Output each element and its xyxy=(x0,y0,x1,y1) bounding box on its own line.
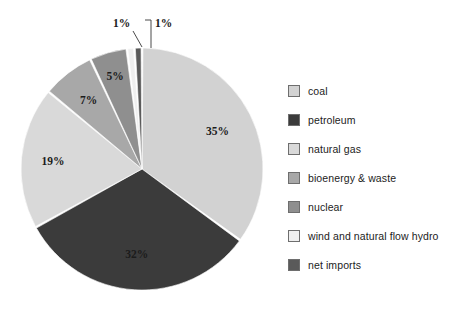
legend-swatch-icon xyxy=(288,230,300,242)
callout-group-net-imports: 1% xyxy=(145,17,172,48)
pie-chart-figure: 35%32%19%7%5% 1% 1% coalpetroleumnatural… xyxy=(0,0,454,321)
leader-line-net-imports xyxy=(145,20,151,48)
legend-swatch-icon xyxy=(288,143,300,155)
data-label-bioenergy-waste: 7% xyxy=(80,94,97,106)
legend-item-label: bioenergy & waste xyxy=(308,172,396,184)
legend-item-label: petroleum xyxy=(308,114,356,126)
legend-item-label: nuclear xyxy=(308,201,343,213)
data-label-nuclear: 5% xyxy=(106,70,123,82)
legend-item-label: coal xyxy=(308,85,328,97)
data-label-natural-gas: 19% xyxy=(41,155,64,167)
legend-item-coal[interactable]: coal xyxy=(288,76,454,105)
legend-item-label: natural gas xyxy=(308,143,361,155)
legend-item-label: wind and natural flow hydro xyxy=(308,230,439,242)
legend-item-bioenergy-waste[interactable]: bioenergy & waste xyxy=(288,163,454,192)
chart-legend: coalpetroleumnatural gasbioenergy & wast… xyxy=(288,76,454,279)
callout-label-net-imports: 1% xyxy=(155,17,172,29)
legend-swatch-icon xyxy=(288,172,300,184)
legend-swatch-icon xyxy=(288,259,300,271)
legend-item-net-imports[interactable]: net imports xyxy=(288,250,454,279)
callout-group-wind: 1% xyxy=(113,17,142,47)
data-label-petroleum: 32% xyxy=(125,248,148,260)
legend-item-natural-gas[interactable]: natural gas xyxy=(288,134,454,163)
data-label-coal: 35% xyxy=(206,125,229,137)
legend-swatch-icon xyxy=(288,85,300,97)
leader-line-wind xyxy=(133,31,142,47)
legend-item-petroleum[interactable]: petroleum xyxy=(288,105,454,134)
callout-label-wind: 1% xyxy=(113,17,130,29)
legend-item-wind-and-natural-flow-hydro[interactable]: wind and natural flow hydro xyxy=(288,221,454,250)
legend-item-nuclear[interactable]: nuclear xyxy=(288,192,454,221)
legend-swatch-icon xyxy=(288,201,300,213)
legend-item-label: net imports xyxy=(308,259,361,271)
legend-swatch-icon xyxy=(288,114,300,126)
